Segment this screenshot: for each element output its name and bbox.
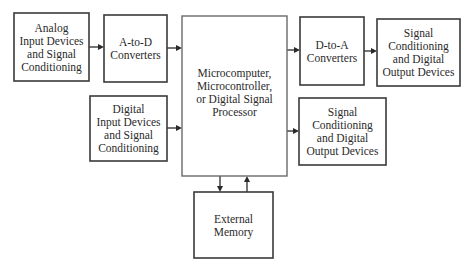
block-d-to-a-converters: D-to-AConverters xyxy=(300,17,364,85)
block-label-line: Signal xyxy=(404,27,433,40)
block-label-line: Signal xyxy=(328,106,357,119)
arrowhead-icon xyxy=(217,186,223,192)
arrow-processor-to-digital-output xyxy=(287,128,299,134)
block-label-line: Converters xyxy=(110,49,161,61)
block-label-line: Conditioning xyxy=(312,119,373,132)
block-label-line: and Digital xyxy=(393,53,444,66)
arrowhead-icon xyxy=(294,47,300,53)
block-label-line: External xyxy=(214,213,253,225)
arrow-adc-to-processor xyxy=(167,45,182,51)
block-label-line: and Digital xyxy=(317,132,368,145)
block-label-line: Digital xyxy=(113,103,145,116)
block-label-line: Conditioning xyxy=(21,61,82,74)
block-label-line: D-to-A xyxy=(315,39,349,51)
arrow-dac-to-output xyxy=(364,48,377,54)
block-digital-input: DigitalInput Devicesand SignalConditioni… xyxy=(90,96,167,161)
arrowhead-icon xyxy=(244,176,250,182)
arrowhead-icon xyxy=(176,125,182,131)
block-label-line: Converters xyxy=(307,52,358,64)
block-label-line: A-to-D xyxy=(119,36,152,48)
block-external-memory: ExternalMemory xyxy=(194,192,273,258)
block-label-line: Output Devices xyxy=(383,66,455,79)
arrowhead-icon xyxy=(293,128,299,134)
block-processor: Microcomputer,Microcontroller,or Digital… xyxy=(182,16,287,176)
block-label-line: Output Devices xyxy=(307,145,379,158)
block-label-line: Microcomputer, xyxy=(198,67,272,80)
block-label-line: Microcontroller, xyxy=(197,80,272,93)
block-label-line: Input Devices xyxy=(96,116,161,129)
block-diagram: AnalogInput Devicesand SignalConditionin… xyxy=(0,0,470,275)
block-label-line: and Signal xyxy=(27,48,76,61)
arrowhead-icon xyxy=(176,45,182,51)
blocks-layer: AnalogInput Devicesand SignalConditionin… xyxy=(14,13,460,258)
block-label-line: Analog xyxy=(35,22,69,35)
block-label-line: Processor xyxy=(212,106,257,118)
block-label-line: Conditioning xyxy=(388,40,449,53)
arrow-analog-to-adc xyxy=(89,44,104,50)
block-analog-input: AnalogInput Devicesand SignalConditionin… xyxy=(14,13,89,81)
block-signal-conditioning-output-top: SignalConditioningand DigitalOutput Devi… xyxy=(377,19,460,86)
arrow-digital-input-to-processor xyxy=(167,125,182,131)
arrowhead-icon xyxy=(98,44,104,50)
arrowhead-icon xyxy=(371,48,377,54)
arrow-processor-to-memory xyxy=(217,176,223,192)
block-a-to-d-converters: A-to-DConverters xyxy=(104,15,167,82)
block-label-line: Conditioning xyxy=(98,142,159,155)
block-label-line: and Signal xyxy=(104,129,153,142)
block-label-line: Memory xyxy=(214,226,254,239)
arrow-processor-to-dac xyxy=(287,47,300,53)
block-signal-conditioning-output-bottom: SignalConditioningand DigitalOutput Devi… xyxy=(299,98,386,165)
block-label-line: Input Devices xyxy=(19,35,84,48)
block-label-line: or Digital Signal xyxy=(196,93,273,106)
arrow-memory-to-processor xyxy=(244,176,250,192)
